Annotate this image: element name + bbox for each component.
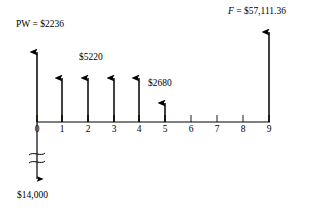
tick-label-8: 8 [236, 124, 250, 134]
initial-outflow-label: $14,000 [17, 190, 48, 200]
tick-label-3: 3 [107, 124, 121, 134]
cash-flow-diagram-canvas [0, 0, 313, 213]
tick-label-2: 2 [81, 124, 95, 134]
tick-label-7: 7 [210, 124, 224, 134]
cash-inflow-arrows [37, 32, 269, 122]
uniform-series-label: $5220 [79, 52, 103, 62]
future-worth-value: $57,111.36 [244, 6, 286, 16]
tick-label-5: 5 [158, 124, 172, 134]
single-payment-label: $2680 [148, 78, 172, 88]
future-worth-label: F = $57,111.36 [228, 6, 286, 16]
timeline-ticks [37, 115, 269, 122]
future-worth-equals: = [234, 6, 244, 16]
present-worth-text: PW = $2236 [16, 19, 64, 29]
tick-label-0: 0 [30, 124, 44, 134]
present-worth-label: PW = $2236 [16, 19, 64, 29]
tick-label-4: 4 [132, 124, 146, 134]
tick-label-6: 6 [184, 124, 198, 134]
tick-label-1: 1 [55, 124, 69, 134]
cash-flow-diagram-figure: 0 1 2 3 4 5 6 7 8 9 PW = $2236 $5220 $26… [0, 0, 313, 213]
tick-label-9: 9 [262, 124, 276, 134]
